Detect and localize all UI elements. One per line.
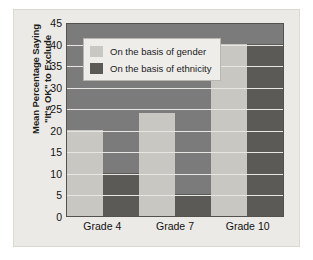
y-tick-25: 25 — [50, 103, 62, 115]
y-tick-10: 10 — [50, 168, 62, 180]
y-axis-tick-labels: 051015202530354045 — [40, 23, 62, 217]
bar-group-grade-10 — [211, 24, 283, 216]
y-tick-0: 0 — [56, 211, 62, 223]
y-tick-5: 5 — [56, 189, 62, 201]
x-tick-grade-10: Grade 10 — [211, 220, 284, 232]
chart-legend: On the basis of gender On the basis of e… — [83, 38, 221, 81]
legend-label-ethnicity: On the basis of ethnicity — [110, 63, 211, 74]
y-tick-35: 35 — [50, 60, 62, 72]
x-tick-grade-7: Grade 7 — [139, 220, 212, 232]
legend-label-gender: On the basis of gender — [110, 46, 206, 57]
y-tick-20: 20 — [50, 125, 62, 137]
y-tick-15: 15 — [50, 146, 62, 158]
legend-swatch-ethnicity — [90, 63, 103, 74]
y-tick-40: 40 — [50, 39, 62, 51]
chart-figure: Mean Percentage Saying "It's OK" to Excl… — [14, 10, 299, 246]
bar-grade-7-gender — [139, 113, 175, 216]
legend-swatch-gender — [90, 46, 103, 57]
y-tick-45: 45 — [50, 17, 62, 29]
bar-grade-4-ethnicity — [103, 173, 139, 216]
legend-item-gender: On the basis of gender — [90, 44, 211, 58]
x-axis-tick-labels: Grade 4Grade 7Grade 10 — [66, 220, 284, 232]
plot-area: On the basis of gender On the basis of e… — [66, 23, 284, 217]
bar-grade-10-ethnicity — [247, 44, 283, 216]
legend-item-ethnicity: On the basis of ethnicity — [90, 61, 211, 75]
y-tick-30: 30 — [50, 82, 62, 94]
bar-grade-7-ethnicity — [175, 194, 211, 216]
bar-grade-4-gender — [67, 130, 103, 216]
x-tick-grade-4: Grade 4 — [66, 220, 139, 232]
